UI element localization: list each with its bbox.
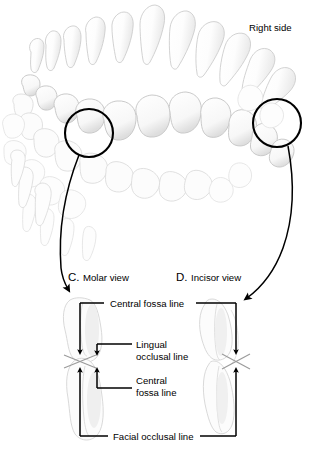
panel-d-letter: D. [176,271,188,283]
lingual-occlusal-line-label-1: Lingual [136,339,167,350]
dental-occlusal-lines-figure: Right side C. Molar view D. Incisor view [0,0,319,452]
panel-caption-molar: C. Molar view [68,271,129,283]
panel-c-name: Molar view [83,272,129,283]
panel-caption-incisor: D. Incisor view [176,271,241,283]
central-fossa-line-top-label: Central fossa line [110,298,184,309]
panel-c-letter: C. [68,271,80,283]
panel-d-name: Incisor view [191,272,241,283]
central-fossa-line-inner-label-1: Central [136,375,167,386]
lingual-occlusal-line-label-2: occlusal line [136,351,188,362]
facial-occlusal-line-label: Facial occlusal line [113,431,194,442]
right-side-label: Right side [249,22,292,33]
central-fossa-line-inner-label-2: fossa line [136,387,177,398]
